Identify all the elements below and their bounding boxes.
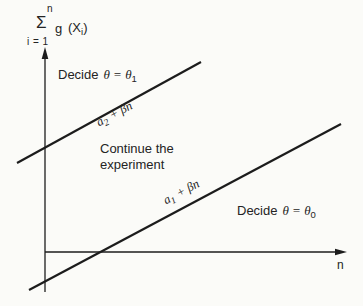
x-axis-label: n — [337, 258, 344, 272]
sum-upper-limit: n — [47, 3, 53, 14]
sum-arg-subscript: i — [81, 26, 83, 37]
decide-theta0-symbols: θ = θ — [282, 203, 310, 218]
sum-lower-limit: i = 1 — [27, 36, 49, 47]
sequential-test-figure: n Σ i = 1 g (Xi) Decideθ = θ1 Continue t… — [0, 0, 363, 306]
y-axis-arrowhead — [42, 47, 49, 59]
decide-theta1-word: Decide — [58, 67, 98, 82]
sum-arg-close: ) — [83, 20, 87, 35]
decide-theta0-word: Decide — [237, 203, 277, 218]
sum-function: g — [55, 21, 62, 36]
sum-arg-open: (X — [68, 20, 81, 35]
decide-theta1-label: Decideθ = θ1 — [58, 67, 137, 83]
continue-line1: Continue the — [100, 141, 190, 157]
sum-argument: (Xi) — [68, 20, 87, 35]
continue-line2: experiment — [100, 157, 190, 173]
decide-theta1-subscript: 1 — [132, 73, 137, 84]
continue-experiment-label: Continue the experiment — [100, 141, 190, 173]
x-axis-arrowhead — [335, 249, 347, 256]
decide-theta1-symbols: θ = θ — [103, 67, 131, 82]
decide-theta0-label: Decideθ = θ0 — [237, 203, 316, 219]
sigma-symbol: Σ — [36, 14, 47, 31]
decide-theta0-subscript: 0 — [311, 209, 316, 220]
